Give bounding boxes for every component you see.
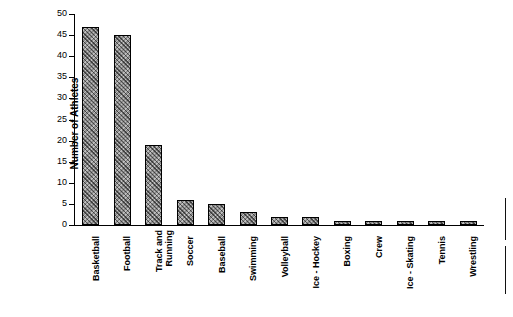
x-tick-label: Ice - Skating — [405, 236, 415, 316]
y-tick-mark — [69, 204, 74, 205]
x-axis-labels: BasketballFootballTrack and RunningSocce… — [74, 230, 484, 310]
x-tick-label: Tennis — [437, 236, 447, 316]
x-tick-label: Swimming — [248, 236, 258, 316]
x-axis-line — [74, 225, 484, 226]
y-tick-mark — [69, 183, 74, 184]
y-tick-mark — [69, 162, 74, 163]
y-tick-mark — [69, 77, 74, 78]
y-tick-mark — [69, 35, 74, 36]
y-tick-label: 15 — [45, 155, 67, 167]
bar — [397, 221, 414, 225]
bar — [240, 212, 257, 225]
x-tick-label: Baseball — [217, 236, 227, 316]
page-edge-artifact-top — [505, 198, 506, 240]
y-tick-mark — [69, 120, 74, 121]
y-tick-mark — [69, 56, 74, 57]
x-tick-label: Football — [122, 236, 132, 316]
bar — [145, 145, 162, 225]
y-tick-mark — [69, 225, 74, 226]
y-tick-mark — [69, 98, 74, 99]
bar — [460, 221, 477, 225]
x-tick-label: Crew — [374, 236, 384, 316]
x-tick-label: Ice - Hockey — [311, 236, 321, 316]
x-tick-label-wrap: Wrestling — [468, 230, 513, 242]
plot-area: 05101520253035404550 — [74, 14, 484, 226]
bar — [271, 217, 288, 225]
bar — [177, 200, 194, 225]
y-tick-label: 45 — [45, 28, 67, 40]
y-tick-label: 10 — [45, 176, 67, 188]
bar — [365, 221, 382, 225]
x-tick-label: Boxing — [342, 236, 352, 316]
bar — [114, 35, 131, 225]
y-tick-label: 35 — [45, 70, 67, 82]
bar — [428, 221, 445, 225]
bar-chart: Number of Athletes 05101520253035404550 … — [0, 0, 513, 317]
bar — [208, 204, 225, 225]
page-edge-artifact-bottom — [505, 246, 506, 294]
y-tick-label: 20 — [45, 134, 67, 146]
y-tick-label: 50 — [45, 7, 67, 19]
x-tick-label: Soccer — [185, 236, 195, 316]
y-tick-mark — [69, 14, 74, 15]
x-tick-label: Wrestling — [468, 236, 478, 316]
y-tick-label: 5 — [45, 197, 67, 209]
y-tick-label: 40 — [45, 49, 67, 61]
x-tick-label: Track and Running — [154, 230, 174, 310]
bar — [302, 217, 319, 225]
x-tick-label: Volleyball — [280, 236, 290, 316]
bar — [82, 27, 99, 225]
y-tick-label: 30 — [45, 91, 67, 103]
x-tick-label: Basketball — [91, 236, 101, 316]
y-tick-mark — [69, 141, 74, 142]
y-tick-label: 0 — [45, 218, 67, 230]
y-tick-label: 25 — [45, 113, 67, 125]
bar — [334, 221, 351, 225]
bar-series — [75, 14, 484, 225]
